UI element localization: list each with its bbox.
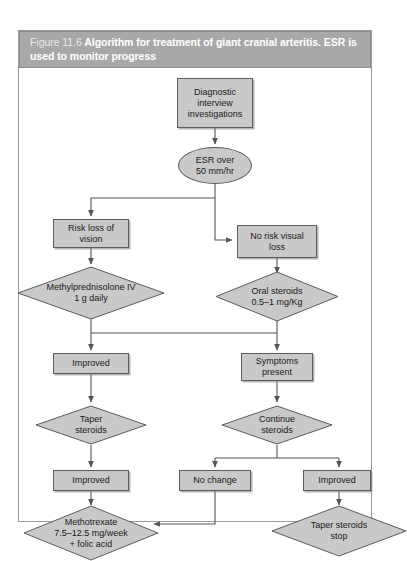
node-taper-line2: steroids [75,425,107,435]
node-taper-steroids-stop: Taper steroids stop [271,505,407,557]
node-improved-right: Improved [303,470,371,491]
node-improved-left-label: Improved [70,358,112,369]
figure-title-line1: Algorithm for treatment of giant cranial… [84,36,345,48]
node-symptoms-line1: Symptoms [256,356,299,366]
node-symptoms-present: Symptoms present [241,353,313,381]
node-norisk-line1: No risk visual [250,231,304,241]
node-continue-line2: steroids [261,425,293,435]
node-diagnostic-line3: investigations [188,109,243,119]
node-methotrexate-line1: Methotrexate [65,517,118,527]
node-esr-over-50: ESR over 50 mm/hr [178,147,252,184]
node-taperstop-line1: Taper steroids [311,520,368,530]
edge-esr-riskloss [91,198,215,216]
node-esr-line2: 50 mm/hr [196,166,234,176]
node-methylpred-line2: 1 g daily [74,293,108,303]
node-improved-left: Improved [53,353,129,374]
node-risk-loss-of-vision: Risk loss of vision [53,219,129,248]
node-methylpred-line1: Methylprednisolone IV [46,282,135,292]
node-oral-line2: 0.5–1 mg/Kg [251,297,302,307]
edge-nochange-methotrexate [154,491,215,524]
node-improved-left2-label: Improved [70,475,112,486]
node-esr-line1: ESR over [196,155,235,165]
node-improved-right-label: Improved [316,475,358,486]
node-taper-steroids: Taper steroids [35,405,147,445]
figure-number: Figure 11.6 [30,36,82,48]
node-methotrexate: Methotrexate 7.5–12.5 mg/week + folic ac… [23,505,159,561]
flowchart-canvas: Diagnostic interview investigations ESR … [19,68,373,522]
node-improved-left-second: Improved [53,470,129,491]
node-riskloss-line1: Risk loss of [68,223,114,233]
node-diagnostic-interview: Diagnostic interview investigations [177,78,253,128]
figure-header: Figure 11.6 Algorithm for treatment of g… [19,31,371,68]
node-methotrexate-line3: + folic acid [70,539,113,549]
node-methotrexate-line2: 7.5–12.5 mg/week [54,528,128,538]
node-continue-line1: Continue [259,414,295,424]
node-norisk-line2: loss [269,242,285,252]
figure-container: Figure 11.6 Algorithm for treatment of g… [18,30,372,522]
node-diagnostic-line2: interview [197,98,233,108]
node-riskloss-line2: vision [79,234,102,244]
node-oral-steroids: Oral steroids 0.5–1 mg/Kg [215,271,339,322]
node-diagnostic-line1: Diagnostic [194,87,236,97]
node-nochange-label: No change [191,475,239,486]
node-continue-steroids: Continue steroids [221,405,333,445]
node-no-risk-visual-loss: No risk visual loss [237,225,317,258]
node-symptoms-line2: present [262,367,292,377]
node-taper-line1: Taper [80,414,103,424]
node-taperstop-line2: stop [330,531,347,541]
node-oral-line1: Oral steroids [251,286,302,296]
edge-esr-norisk [215,198,232,240]
node-methylprednisolone: Methylprednisolone IV 1 g daily [17,266,165,320]
node-no-change: No change [179,470,251,491]
